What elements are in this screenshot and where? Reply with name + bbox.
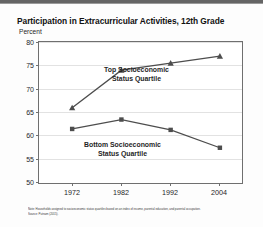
y-tick-label-55: 55: [26, 155, 34, 162]
series-label-bottom-line2: Status Quartile: [84, 150, 161, 159]
data-point-1-1992: [168, 128, 172, 132]
x-tick-mark-1972: [72, 183, 73, 186]
y-tick-label-70: 70: [26, 85, 34, 92]
y-tick-label-60: 60: [26, 132, 34, 139]
chart-footnote: Note: Households assigned to socioeconom…: [28, 207, 253, 216]
y-tick-label-75: 75: [26, 62, 34, 69]
x-tick-mark-2004: [219, 183, 220, 186]
x-tick-mark-1992: [170, 183, 171, 186]
series-data-layer: [39, 42, 242, 183]
x-tick-label-1992: 1992: [162, 188, 178, 197]
y-axis-unit-label: Percent: [19, 28, 42, 35]
scan-artifact-band-secondary: [0, 3, 263, 4]
series-label-top-line1: Top Socioeconomic: [104, 66, 169, 75]
x-tick-label-2004: 2004: [211, 188, 227, 197]
x-tick-mark-1982: [121, 183, 122, 186]
x-tick-label-1982: 1982: [113, 188, 129, 197]
plot-area: 80 75 70 65 60 55 50 1972: [38, 41, 243, 184]
y-tick-label-50: 50: [26, 179, 34, 186]
chart-figure: Participation in Extracurricular Activit…: [0, 0, 263, 227]
y-tick-label-65: 65: [26, 109, 34, 116]
y-tick-label-80: 80: [26, 39, 34, 46]
series-label-bottom-line1: Bottom Socioeconomic: [84, 141, 161, 150]
data-point-1-1982: [119, 117, 123, 121]
chart-title: Participation in Extracurricular Activit…: [17, 16, 224, 26]
series-label-bottom-quartile: Bottom Socioeconomic Status Quartile: [84, 141, 161, 159]
footnote-source-line: Source: Putnam (2015).: [28, 212, 253, 217]
data-point-1-2004: [218, 146, 222, 150]
series-label-top-line2: Status Quartile: [104, 75, 169, 84]
series-label-top-quartile: Top Socioeconomic Status Quartile: [104, 66, 169, 84]
data-point-1-1972: [70, 127, 74, 131]
x-tick-label-1972: 1972: [64, 188, 80, 197]
